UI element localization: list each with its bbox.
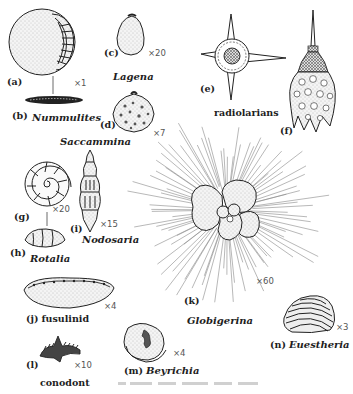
specimen-k-globigerina-test [192,180,260,240]
specimen-letter-n: (n) [270,339,286,350]
specimen-letter-l: (l) [26,359,39,370]
globigerina-spine [180,130,216,190]
magnification-m: ×4 [173,348,186,358]
specimen-letter-and-name-j: (j)fusulinid [26,313,89,324]
globigerina-spine [204,230,220,276]
specimen-letter-d: (d) [100,119,116,130]
specimen-name-lagena: Lagena [112,71,154,82]
specimen-name-beyrichia: Beyrichia [145,365,199,376]
specimen-j-fusulinid [24,278,114,308]
globigerina-spine [173,229,211,271]
magnification-l: ×10 [74,360,92,370]
specimen-letter-c: (c) [104,47,119,58]
magnification-c: ×20 [148,48,166,58]
specimen-name-saccammina: Saccammina [60,136,131,147]
specimen-name-euestheria: Euestheria [288,339,350,350]
globigerina-spine [161,224,214,275]
specimen-l-conodont [40,336,80,362]
specimen-letter-j: (j) [26,313,38,324]
globigerina-spine [192,230,219,289]
specimen-name-fusulinid: fusulinid [41,313,89,324]
specimen-letter-a: (a) [7,76,22,87]
specimen-name-nodosaria: Nodosaria [81,234,139,245]
magnification-i: ×15 [100,219,118,229]
specimen-name-rotalia: Rotalia [29,253,70,264]
specimen-letter-and-name-n: (n)Euestheria [270,339,350,350]
specimen-b-nummulites-section [25,96,83,104]
specimen-name-nummulites: Nummulites [31,112,101,123]
globigerina-spine [250,211,288,212]
specimen-letter-i: (i) [70,223,83,234]
figure-caption-illegible [118,382,258,385]
specimen-d-saccammina [113,92,154,132]
specimen-n-euestheria [284,296,335,333]
specimen-letter-b: (b) [12,110,28,121]
specimen-letter-f: (f) [280,125,293,136]
globigerina-spine [232,233,245,291]
specimen-g-rotalia-spiral [25,162,71,226]
specimen-m-beyrichia [124,323,166,362]
specimen-letter-m: (m) [124,365,143,376]
specimen-c-lagena [117,15,144,56]
specimen-name-globigerina: Globigerina [187,315,253,326]
specimen-letter-h: (h) [10,247,26,258]
magnification-g: ×20 [52,204,70,214]
globigerina-spine [166,225,217,290]
specimen-name-conodont: conodont [40,377,90,388]
specimen-f-radiolarian-conical [290,10,336,132]
magnification-a: ×1 [74,78,87,88]
globigerina-spine [202,127,220,186]
specimen-letter-e: (e) [200,83,215,94]
magnification-k: ×60 [256,276,274,286]
specimen-letter-and-name-m: (m)Beyrichia [124,365,199,376]
group-label-radiolarians: radiolarians [214,107,279,118]
specimen-i-nodosaria [80,150,101,232]
globigerina-spine [202,232,220,285]
specimen-letter-k: (k) [184,295,200,306]
globigerina-spine [178,123,218,194]
magnification-j: ×4 [104,301,117,311]
specimen-letter-g: (g) [14,211,30,222]
magnification-d: ×7 [153,128,166,138]
microfossil-plate: (a) ×1 (b) Nummulites (c) ×20 Lagena (d)… [0,0,353,394]
magnification-n: ×3 [336,322,349,332]
specimen-h-rotalia-side [25,229,65,247]
